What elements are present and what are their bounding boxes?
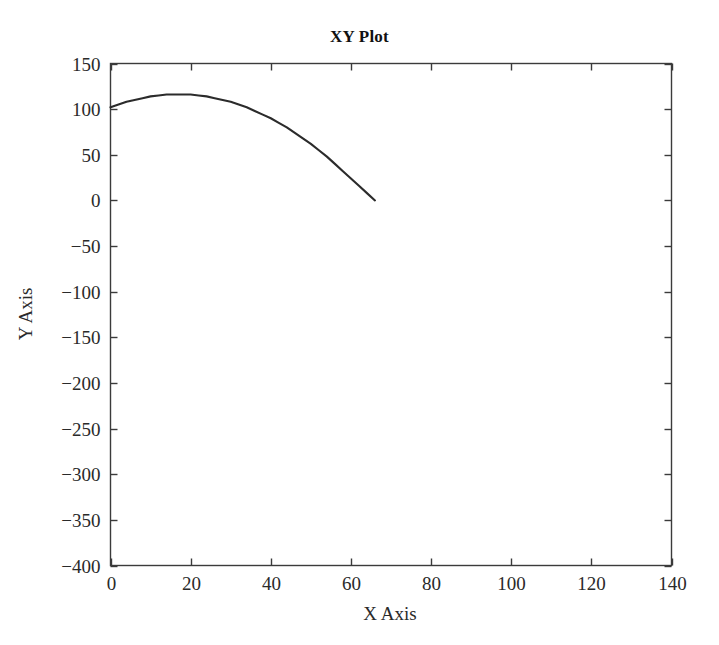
- y-tick-label: −350: [61, 510, 100, 531]
- y-axis-tick-labels: 150100500−50−100−150−200−250−300−350−400: [61, 54, 100, 577]
- y-tick-label: 150: [72, 54, 101, 75]
- y-tick-label: −100: [61, 282, 100, 303]
- x-axis-title: X Axis: [363, 603, 416, 624]
- axis-tickmarks: [111, 64, 673, 567]
- x-axis-tick-labels: 020406080100120140: [107, 573, 687, 594]
- plot-frame: [111, 64, 672, 566]
- x-tick-label: 140: [658, 573, 687, 594]
- x-tick-label: 120: [577, 573, 606, 594]
- x-tick-label: 20: [182, 573, 201, 594]
- plot-canvas: 150100500−50−100−150−200−250−300−350−400…: [0, 0, 719, 645]
- xy-plot-figure: XY Plot 150100500−50−100−150−200−250−300…: [0, 0, 719, 645]
- x-tick-label: 60: [342, 573, 361, 594]
- y-tick-label: −300: [61, 464, 100, 485]
- y-tick-label: −150: [61, 327, 100, 348]
- x-tick-label: 100: [497, 573, 526, 594]
- y-tick-label: 0: [91, 190, 101, 211]
- y-axis-title: Y Axis: [15, 288, 36, 341]
- x-tick-label: 80: [422, 573, 441, 594]
- y-tick-label: 50: [82, 145, 101, 166]
- data-series-trajectory: [111, 95, 375, 201]
- x-tick-label: 0: [107, 573, 117, 594]
- x-tick-label: 40: [262, 573, 281, 594]
- y-tick-label: 100: [72, 99, 101, 120]
- y-tick-label: −50: [71, 236, 101, 257]
- y-tick-label: −200: [61, 373, 100, 394]
- y-tick-label: −400: [61, 556, 100, 577]
- y-tick-label: −250: [61, 419, 100, 440]
